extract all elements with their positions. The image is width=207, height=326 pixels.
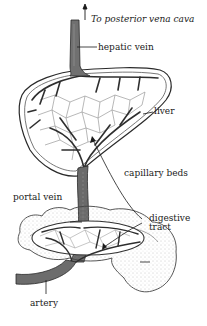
label-digestive-line2: tract [149, 222, 171, 232]
arrow-up-icon [83, 4, 87, 20]
liver-organ [19, 68, 171, 177]
label-artery: artery [30, 298, 58, 308]
label-capillary-beds: capillary beds [124, 168, 188, 178]
label-hepatic-vein: hepatic vein [98, 42, 154, 52]
label-liver: liver [154, 106, 174, 116]
label-portal-vein: portal vein [13, 192, 62, 202]
label-to-posterior-vena-cava: To posterior vena cava [91, 14, 194, 24]
hepatic-portal-system-diagram: To posterior vena cava hepatic vein live… [0, 0, 207, 326]
hepatic-vein-vessel [70, 20, 90, 76]
